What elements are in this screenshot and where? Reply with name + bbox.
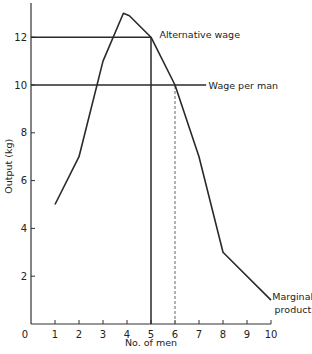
y-tick-label: 12 (14, 32, 27, 43)
x-tick-label: 7 (196, 329, 202, 340)
y-axis-ticks: 24681012 (14, 32, 35, 282)
annotation-label: Wage per man (209, 80, 278, 91)
marginal-product-chart: 12345678910 24681012 0 Alternative wageW… (0, 0, 312, 354)
reference-lines (31, 37, 206, 324)
x-tick-label: 1 (52, 329, 58, 340)
x-tick-label: 9 (244, 329, 250, 340)
annotation-label: Alternative wage (159, 29, 240, 40)
y-tick-label: 10 (14, 80, 27, 91)
y-axis-title: Output (kg) (3, 139, 14, 194)
annotation-label: Marginal (272, 291, 312, 302)
annotations: Alternative wageWage per manMarginalprod… (159, 29, 312, 315)
x-tick-label: 10 (265, 329, 278, 340)
y-tick-label: 4 (21, 223, 27, 234)
x-tick-label: 3 (100, 329, 106, 340)
x-axis-title: No. of men (125, 337, 177, 348)
origin-label: 0 (22, 329, 28, 340)
marginal-product-curve (55, 13, 271, 300)
y-tick-label: 6 (21, 175, 27, 186)
x-tick-label: 8 (220, 329, 226, 340)
plot-area: 12345678910 24681012 0 Alternative wageW… (3, 3, 312, 348)
x-tick-label: 2 (76, 329, 82, 340)
y-tick-label: 2 (21, 271, 27, 282)
y-tick-label: 8 (21, 127, 27, 138)
annotation-label: product (275, 304, 312, 315)
